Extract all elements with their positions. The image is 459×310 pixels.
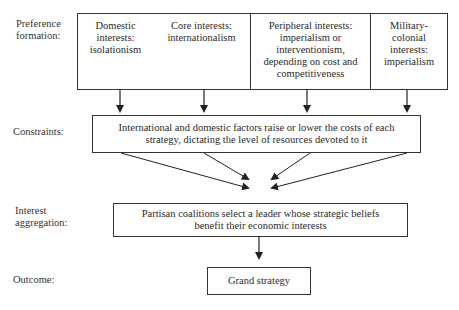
arrow-converge-icon bbox=[272, 153, 407, 188]
flow-arrows bbox=[0, 0, 459, 310]
arrow-converge-icon bbox=[121, 153, 248, 188]
arrow-converge-icon bbox=[272, 153, 310, 179]
arrow-converge-icon bbox=[204, 153, 248, 179]
